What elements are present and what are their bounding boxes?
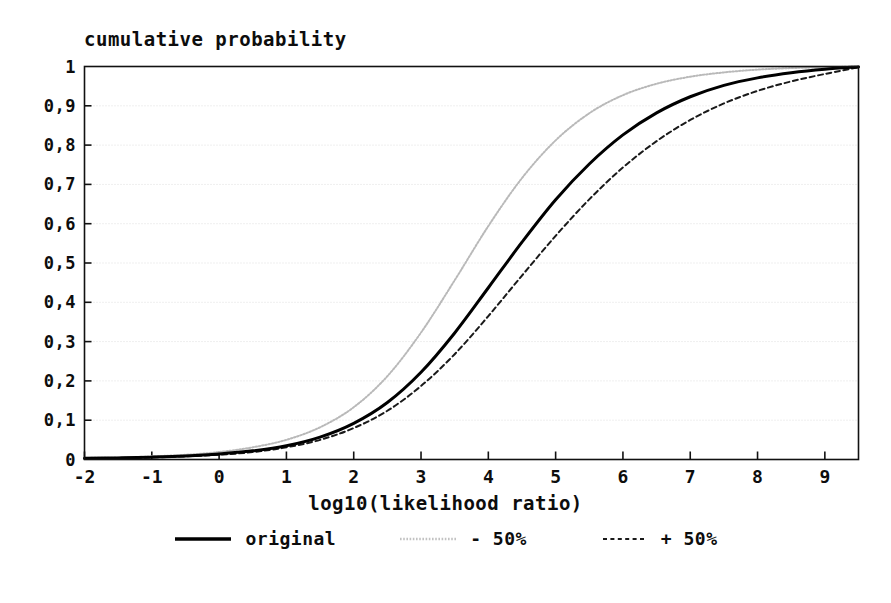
y-tick-label: 0,7 xyxy=(16,174,76,194)
x-tick-label: 9 xyxy=(805,466,845,487)
x-tick-label: 8 xyxy=(738,466,778,487)
legend-item-plus-50[interactable]: + 50% xyxy=(589,528,718,549)
x-tick-label: 0 xyxy=(199,466,239,487)
x-tick-label: -2 xyxy=(65,466,105,487)
legend-item-minus-50[interactable]: - 50% xyxy=(398,528,527,549)
legend-label-plus-50: + 50% xyxy=(661,528,718,549)
y-tick-label: 0,6 xyxy=(16,214,76,234)
y-tick-label: 0,1 xyxy=(16,410,76,430)
y-tick-marks xyxy=(85,106,92,420)
y-tick-label: 0,9 xyxy=(16,96,76,116)
y-tick-label: 0,3 xyxy=(16,332,76,352)
x-tick-label: 7 xyxy=(670,466,710,487)
x-tick-label: 6 xyxy=(603,466,643,487)
x-tick-label: 2 xyxy=(334,466,374,487)
legend-swatch-plus-50 xyxy=(589,532,649,546)
x-tick-label: 5 xyxy=(536,466,576,487)
legend-swatch-minus-50 xyxy=(398,532,458,546)
legend-label-original: original xyxy=(245,528,336,549)
y-tick-label: 0,2 xyxy=(16,371,76,391)
series-line-50 xyxy=(85,67,859,458)
x-tick-label: 4 xyxy=(468,466,508,487)
y-tick-label: 0,4 xyxy=(16,292,76,312)
chart-legend: original - 50% + 50% xyxy=(0,528,891,549)
x-tick-label: -1 xyxy=(132,466,172,487)
x-tick-label: 3 xyxy=(401,466,441,487)
chart-figure: cumulative probability 00,10,20,30,40,50… xyxy=(0,0,891,603)
y-tick-label: 0,8 xyxy=(16,135,76,155)
legend-swatch-original xyxy=(173,532,233,546)
gridlines xyxy=(85,106,859,420)
y-tick-label: 1 xyxy=(16,57,76,77)
chart-title: cumulative probability xyxy=(84,28,347,50)
x-tick-label: 1 xyxy=(266,466,306,487)
y-tick-label: 0,5 xyxy=(16,253,76,273)
legend-item-original[interactable]: original xyxy=(173,528,336,549)
legend-label-minus-50: - 50% xyxy=(470,528,527,549)
x-axis-label: log10(likelihood ratio) xyxy=(0,492,891,514)
